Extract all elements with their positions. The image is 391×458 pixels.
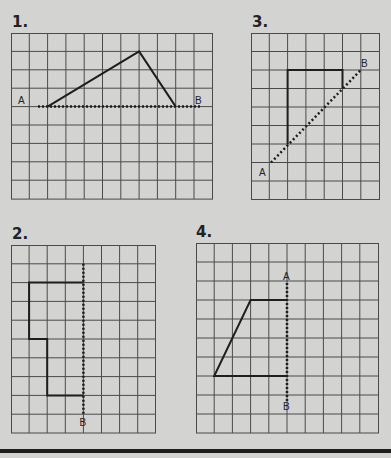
problem-1-grid: A B [11, 33, 213, 200]
problem-4-number: 4. [196, 223, 212, 241]
point-a-label: A [283, 271, 290, 282]
page-bottom-rule [0, 449, 391, 453]
problem-1-number: 1. [12, 13, 28, 31]
point-a-label: A [259, 167, 266, 178]
problem-2-number: 2. [12, 225, 28, 243]
point-b-label: B [361, 58, 368, 69]
problem-2-grid: B [11, 245, 156, 434]
mirror-line-ab [271, 70, 361, 163]
triangle-shape [48, 51, 176, 106]
problem-3-grid: A B [251, 33, 380, 201]
point-b-label: B [195, 95, 202, 106]
point-a-label: A [18, 95, 25, 106]
problem-3-number: 3. [252, 13, 268, 31]
problem-4-grid: A B [196, 243, 379, 434]
point-b-label: B [283, 401, 290, 412]
point-b-label: B [80, 417, 87, 428]
